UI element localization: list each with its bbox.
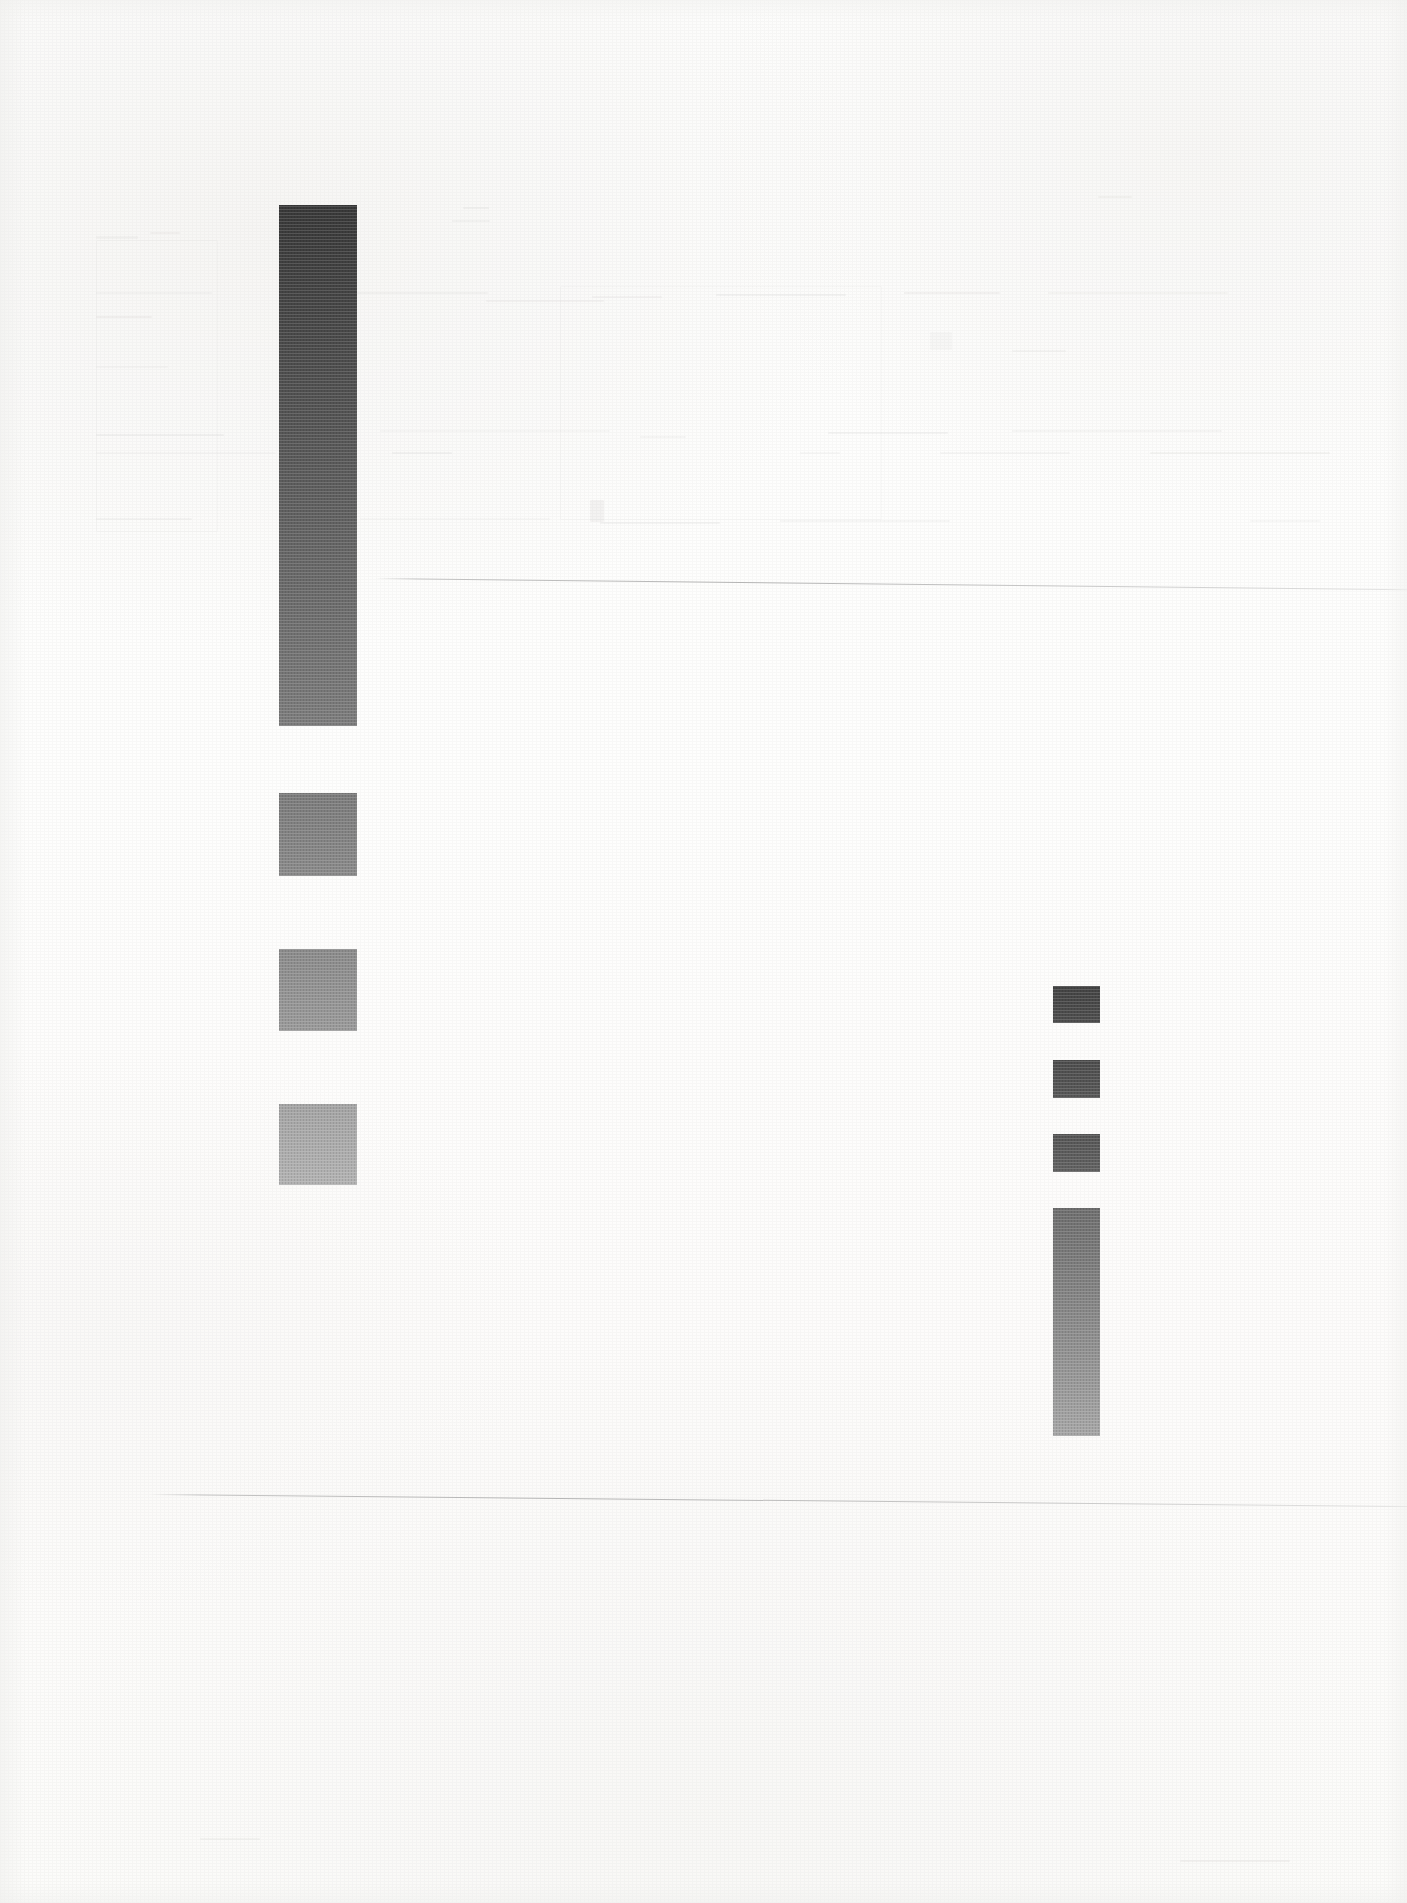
ghost-text-trace bbox=[486, 300, 604, 302]
ghost-text-trace bbox=[452, 220, 490, 222]
ghost-text-trace bbox=[380, 430, 610, 432]
ghost-text-trace bbox=[716, 294, 846, 296]
ghost-text-trace bbox=[96, 366, 168, 368]
paper-background bbox=[0, 0, 1407, 1903]
right-block-1 bbox=[1053, 986, 1100, 1023]
left-block-4 bbox=[279, 1104, 357, 1185]
paper-grain-texture bbox=[0, 0, 1407, 1903]
ghost-text-trace bbox=[1250, 520, 1320, 522]
ghost-text-trace bbox=[600, 522, 720, 524]
left-block-3 bbox=[279, 949, 357, 1031]
upper-hairline bbox=[375, 578, 1407, 590]
ink-halftone-texture bbox=[279, 1104, 357, 1185]
ghost-text-trace bbox=[360, 518, 550, 520]
scanned-page bbox=[0, 0, 1407, 1903]
ghost-text-trace bbox=[96, 452, 276, 454]
ghost-text-trace bbox=[96, 316, 152, 318]
ink-halftone-texture bbox=[279, 949, 357, 1031]
ink-halftone-texture bbox=[1053, 1134, 1100, 1172]
ghost-text-trace bbox=[463, 207, 489, 209]
ink-halftone-texture bbox=[1053, 986, 1100, 1023]
ghost-text-trace bbox=[1048, 292, 1228, 294]
ink-halftone-texture bbox=[279, 205, 357, 726]
left-block-2 bbox=[279, 793, 357, 876]
ghost-text-trace bbox=[592, 296, 662, 298]
ink-halftone-texture bbox=[279, 793, 357, 876]
left-block-1 bbox=[279, 205, 357, 726]
ghost-text-trace bbox=[1012, 430, 1222, 432]
right-block-4 bbox=[1053, 1208, 1100, 1436]
ghost-text-trace bbox=[96, 434, 224, 436]
ghost-text-trace bbox=[96, 518, 192, 520]
ghost-text-trace bbox=[828, 432, 948, 434]
ghost-text-trace bbox=[930, 332, 952, 350]
right-block-2 bbox=[1053, 1060, 1100, 1098]
ghost-frame-trace bbox=[560, 286, 882, 520]
ghost-text-trace bbox=[590, 500, 604, 522]
ink-halftone-texture bbox=[1053, 1208, 1100, 1436]
ghost-text-trace bbox=[940, 452, 1070, 454]
ghost-text-trace bbox=[780, 520, 950, 522]
ghost-text-trace bbox=[800, 452, 840, 454]
ghost-text-trace bbox=[200, 1838, 260, 1840]
ink-halftone-texture bbox=[1053, 1060, 1100, 1098]
ghost-text-trace bbox=[1012, 350, 1066, 352]
ghost-text-trace bbox=[150, 232, 180, 234]
ghost-text-trace bbox=[1150, 452, 1330, 454]
ghost-text-trace bbox=[640, 436, 686, 438]
ghost-text-trace bbox=[1098, 196, 1132, 198]
page-edge-shading bbox=[0, 0, 1407, 1903]
ghost-text-trace bbox=[96, 292, 212, 294]
ghost-text-trace bbox=[904, 292, 1000, 294]
right-block-3 bbox=[1053, 1134, 1100, 1172]
ghost-text-trace bbox=[392, 452, 452, 454]
ghost-text-trace bbox=[96, 236, 138, 239]
lower-hairline bbox=[150, 1494, 1407, 1507]
ghost-text-layer bbox=[0, 0, 1407, 1903]
ghost-frame-trace bbox=[96, 240, 218, 532]
ghost-text-trace bbox=[1180, 1860, 1290, 1862]
